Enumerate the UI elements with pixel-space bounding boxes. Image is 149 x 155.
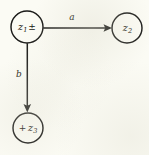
node-z2-label: z2 bbox=[123, 23, 132, 35]
edge-b-label: b bbox=[16, 70, 22, 79]
node-z1-annotation: ± bbox=[27, 22, 36, 32]
node-z3-subscript: 3 bbox=[33, 127, 37, 135]
edge-a-label: a bbox=[69, 13, 74, 22]
node-z3-annotation: + bbox=[19, 123, 28, 133]
node-z2-subscript: 2 bbox=[128, 27, 132, 35]
edge-b bbox=[24, 43, 32, 112]
node-z3-label: +z3 bbox=[19, 123, 38, 135]
graph-diagram: z1± z2 +z3 a b bbox=[0, 0, 149, 155]
node-z1-label: z1± bbox=[18, 22, 36, 34]
edge-a bbox=[43, 24, 112, 32]
